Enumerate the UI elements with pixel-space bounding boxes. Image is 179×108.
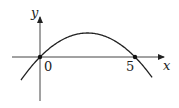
parabola-chart: y x 0 5 [0,0,179,108]
tick-label-5: 5 [126,59,134,74]
origin-point [38,55,42,59]
origin-label: 0 [44,59,52,74]
x-axis-label: x [163,58,171,73]
y-axis-label: y [30,5,39,20]
